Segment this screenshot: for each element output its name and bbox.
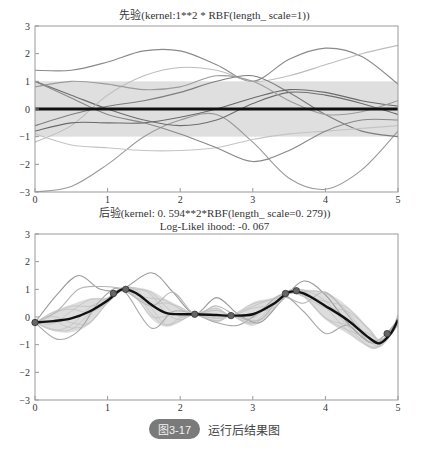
x-tick-label: 2 <box>178 194 183 205</box>
training-point <box>123 286 129 292</box>
y-tick-label: −2 <box>19 159 30 170</box>
y-tick-label: −1 <box>19 339 30 350</box>
training-point <box>293 288 299 294</box>
x-tick-label: 0 <box>33 194 38 205</box>
x-tick-label: 2 <box>178 402 183 413</box>
y-tick-label: 2 <box>25 256 30 267</box>
training-point <box>192 311 198 317</box>
y-tick-label: −3 <box>19 395 30 406</box>
prior-chart: 0123453210−1−2−3 <box>19 21 400 206</box>
y-tick-label: 0 <box>25 104 30 115</box>
x-tick-label: 1 <box>105 194 110 205</box>
training-point <box>384 330 390 336</box>
y-tick-label: 1 <box>25 76 30 87</box>
training-point <box>228 312 234 318</box>
x-tick-label: 4 <box>323 194 328 205</box>
y-tick-label: −1 <box>19 131 30 142</box>
y-tick-label: −2 <box>19 367 30 378</box>
x-tick-label: 3 <box>250 402 255 413</box>
y-tick-label: −3 <box>19 187 30 198</box>
posterior-chart: 0123453210−1−2−3 <box>19 229 400 414</box>
gp-figure: 0123453210−1−2−3 0123453210−1−2−3 <box>0 0 429 463</box>
figure-number-badge: 图3-17 <box>149 419 200 439</box>
x-tick-label: 5 <box>396 194 401 205</box>
x-tick-label: 0 <box>33 402 38 413</box>
x-tick-label: 3 <box>250 194 255 205</box>
x-tick-label: 4 <box>323 402 328 413</box>
y-tick-label: 2 <box>25 48 30 59</box>
y-tick-label: 3 <box>25 21 30 32</box>
y-tick-label: 0 <box>25 312 30 323</box>
training-point <box>282 290 288 296</box>
training-point <box>110 290 116 296</box>
training-point <box>32 319 38 325</box>
figure-caption: 图3-17 运行后结果图 <box>0 419 429 439</box>
prior-sample-line <box>35 48 398 84</box>
x-tick-label: 5 <box>396 402 401 413</box>
y-tick-label: 3 <box>25 229 30 240</box>
y-tick-label: 1 <box>25 284 30 295</box>
x-tick-label: 1 <box>105 402 110 413</box>
figure-caption-text: 运行后结果图 <box>208 421 280 438</box>
